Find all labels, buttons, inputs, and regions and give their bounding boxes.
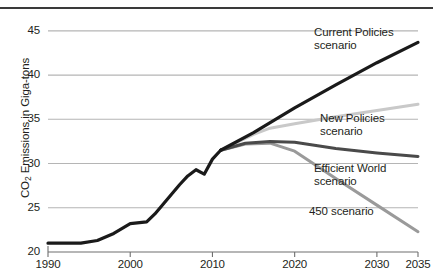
y-axis-title: CO2 Emissions in Giga-tons [19,33,31,223]
chart-figure: CO2 Emissions in Giga-tons Current Polic… [0,0,433,280]
x-tick-label-1990: 1990 [23,258,73,270]
series-label-new-policies-line1: New Policies [320,112,385,125]
y-tick-label-35: 35 [14,112,40,124]
x-tick-label-2010: 2010 [187,258,237,270]
series-line-historical [48,150,221,243]
y-axis-title-subscript: 2 [23,176,33,181]
series-label-450-scenario-line1: 450 scenario [309,205,374,218]
series-label-current-policies: Current Policies scenario [314,26,394,52]
y-tick-label-20: 20 [14,245,40,257]
series-label-new-policies: New Policies scenario [320,112,385,138]
series-label-efficient-world-line2: scenario [314,175,386,188]
y-axis-title-prefix: CO [19,181,31,198]
series-label-current-policies-line1: Current Policies [314,26,394,39]
x-tick-label-2035: 2035 [393,258,433,270]
series-label-current-policies-line2: scenario [314,39,394,52]
series-label-450-scenario: 450 scenario [309,205,374,218]
x-tick-label-2000: 2000 [105,258,155,270]
y-tick-label-25: 25 [14,201,40,213]
x-tick-label-2020: 2020 [270,258,320,270]
y-tick-label-30: 30 [14,157,40,169]
series-label-efficient-world: Efficient World scenario [314,162,386,188]
y-tick-label-45: 45 [14,24,40,36]
series-line-efficient-world-scenario [221,141,418,156]
series-label-efficient-world-line1: Efficient World [314,162,386,175]
y-tick-label-40: 40 [14,68,40,80]
series-label-new-policies-line2: scenario [320,125,385,138]
